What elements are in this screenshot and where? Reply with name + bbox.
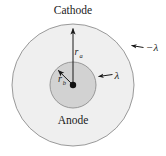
outer-charge-pointer-line: [132, 46, 144, 48]
inner-radius-symbol: r: [58, 73, 62, 84]
inner-charge-label: λ: [114, 69, 120, 81]
diagram-canvas: Cathode Anode −λ λ r a r b: [0, 0, 166, 156]
center-axis-dot: [70, 82, 76, 88]
outer-charge-label: −λ: [146, 41, 158, 53]
anode-label: Anode: [58, 114, 89, 126]
cathode-label: Cathode: [54, 4, 92, 16]
coaxial-cable-cross-section-figure: Cathode Anode −λ λ r a r b: [0, 0, 166, 156]
outer-radius-symbol: r: [75, 46, 79, 57]
outer-radius-subscript: a: [80, 52, 83, 59]
